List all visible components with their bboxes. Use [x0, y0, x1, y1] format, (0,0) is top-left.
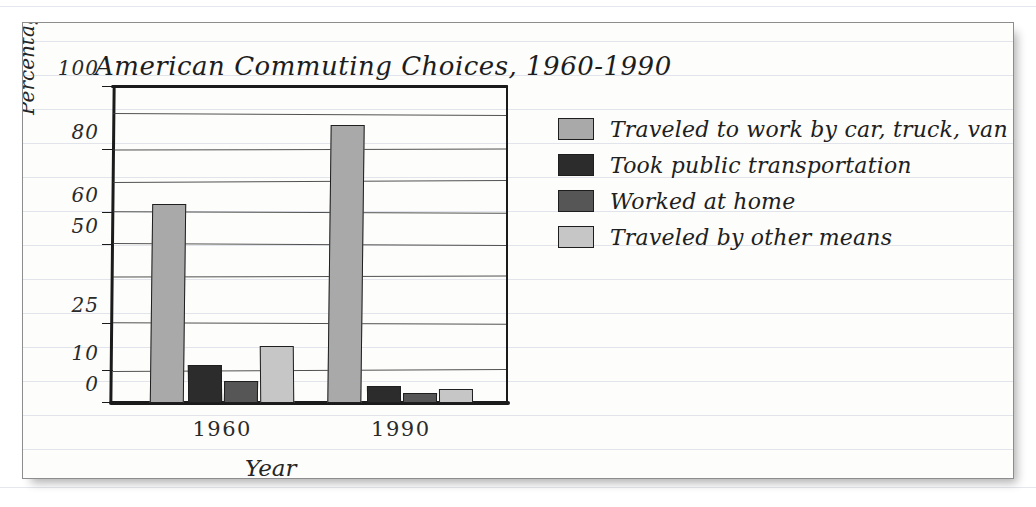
y-tick-label-25: 25 — [72, 293, 99, 317]
y-tick-mark-50 — [102, 244, 113, 245]
paper-rule-line — [23, 449, 1013, 450]
bar-1990-car[interactable] — [328, 125, 365, 403]
y-axis-title: Percentage of Workers — [22, 22, 39, 115]
legend-item-home[interactable]: Worked at home — [558, 183, 988, 219]
gridline-80 — [113, 149, 506, 151]
gridline-70 — [113, 180, 506, 183]
notebook-sheet: American Commuting Choices, 1960-1990 Pe… — [22, 22, 1014, 479]
legend-label-home: Worked at home — [610, 189, 795, 214]
plot-area: 0 10 25 50 60 80 100 1960 1990 — [111, 87, 508, 403]
paper-rule-line — [23, 41, 1013, 42]
y-tick-label-0: 0 — [85, 372, 99, 396]
y-tick-label-50: 50 — [72, 214, 99, 238]
page-rule-line — [0, 487, 1036, 488]
gridline-90 — [113, 113, 506, 116]
y-tick-label-60: 60 — [72, 183, 99, 207]
bar-1960-other[interactable] — [260, 346, 294, 403]
screenshot-canvas: American Commuting Choices, 1960-1990 Pe… — [0, 0, 1036, 507]
y-tick-label-80: 80 — [72, 119, 99, 143]
legend-swatch-car — [558, 118, 594, 140]
legend-item-other[interactable]: Traveled by other means — [558, 219, 988, 255]
paper-rule-line — [23, 415, 1013, 416]
chart-legend: Traveled to work by car, truck, van Took… — [558, 111, 988, 255]
plot-frame-top — [111, 85, 508, 88]
y-axis-line — [109, 87, 115, 403]
plot-frame-right — [506, 85, 508, 403]
bar-1960-car[interactable] — [149, 204, 185, 403]
bar-1990-home[interactable] — [403, 393, 437, 403]
y-tick-mark-0 — [102, 402, 113, 403]
y-tick-mark-60 — [102, 212, 113, 213]
x-axis-title: Year — [245, 455, 297, 479]
legend-swatch-other — [558, 226, 594, 248]
y-tick-mark-25 — [102, 323, 113, 324]
legend-label-transit: Took public transportation — [610, 153, 912, 178]
x-tick-label-1990: 1990 — [371, 417, 430, 441]
y-tick-mark-80 — [102, 149, 113, 150]
legend-swatch-transit — [558, 154, 594, 176]
y-tick-mark-100 — [102, 86, 113, 87]
legend-item-car[interactable]: Traveled to work by car, truck, van — [558, 111, 988, 147]
legend-item-transit[interactable]: Took public transportation — [558, 147, 988, 183]
bar-1960-home[interactable] — [224, 381, 258, 403]
legend-swatch-home — [558, 190, 594, 212]
bar-1990-transit[interactable] — [367, 386, 401, 403]
legend-label-other: Traveled by other means — [610, 225, 892, 250]
y-tick-label-100: 100 — [58, 56, 99, 80]
chart-title: American Commuting Choices, 1960-1990 — [95, 51, 672, 81]
legend-label-car: Traveled to work by car, truck, van — [610, 117, 1008, 142]
bar-1960-transit[interactable] — [188, 365, 222, 403]
y-tick-mark-10 — [102, 370, 113, 371]
x-tick-label-1960: 1960 — [192, 417, 251, 441]
bar-1990-other[interactable] — [438, 389, 472, 403]
page-rule-line — [0, 6, 1036, 7]
y-tick-label-10: 10 — [72, 341, 99, 365]
